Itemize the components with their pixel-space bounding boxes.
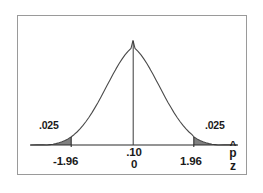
right-tail-probability-label: .025 <box>205 120 225 131</box>
right-critical-value-label: 1.96 <box>180 156 202 168</box>
axis-variable-labels: ^p z <box>222 147 244 172</box>
phat-axis-label: ^p <box>222 147 244 159</box>
center-phat-value: .10 <box>114 147 154 159</box>
center-z-value: 0 <box>114 159 154 171</box>
center-axis-values: .10 0 <box>114 147 154 170</box>
z-axis-label: z <box>222 160 244 172</box>
left-tail-probability-label: .025 <box>39 120 59 131</box>
circumflex-icon: ^ <box>230 140 236 151</box>
figure-root: .025 .025 -1.96 1.96 .10 0 ^p z <box>0 0 263 193</box>
left-critical-value-label: -1.96 <box>53 156 78 168</box>
